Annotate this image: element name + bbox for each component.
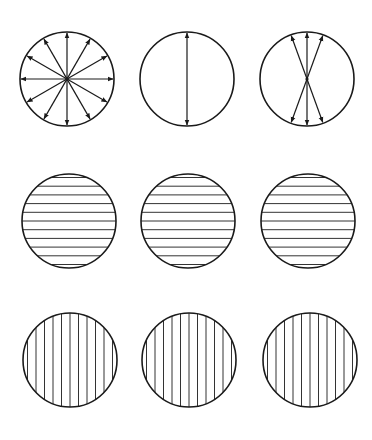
horizontal-filter-1	[20, 174, 118, 268]
horizontal-filter-3	[259, 174, 357, 268]
horizontal-lines-row	[20, 174, 357, 268]
vertical-hatch-lines	[147, 311, 232, 409]
polarization-diagram	[0, 0, 372, 440]
unpolarized-light	[20, 32, 114, 126]
vertical-filter-2	[142, 311, 236, 409]
vertical-filter-1	[23, 311, 117, 409]
diagram-canvas	[0, 0, 372, 440]
center-dot	[65, 77, 68, 80]
vertical-filter-3	[263, 311, 357, 409]
vertical-hatch-lines	[28, 311, 113, 409]
vertical-lines-row	[23, 311, 357, 409]
horizontal-filter-2	[139, 174, 237, 268]
horizontal-hatch-lines	[20, 178, 118, 265]
diagram-rows	[20, 32, 357, 409]
horizontal-hatch-lines	[139, 178, 237, 265]
center-dot	[305, 77, 308, 80]
vertical-hatch-lines	[268, 311, 353, 409]
horizontal-hatch-lines	[259, 178, 357, 265]
partially-polarized-light	[260, 32, 354, 126]
arrow-row	[20, 32, 354, 126]
linear-polarized-light	[140, 32, 234, 126]
